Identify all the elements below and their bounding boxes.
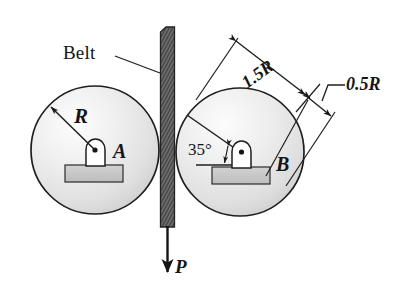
belt-label: Belt [63, 42, 95, 64]
belt-strip [161, 27, 175, 227]
dimension-0-5r-label: 0.5R [346, 74, 381, 95]
force-p-label: P [175, 256, 187, 278]
dim-0-5r-line [305, 95, 331, 116]
pulley-b-label: B [276, 153, 289, 176]
dim-0-5r-leader [322, 85, 345, 101]
pulley-a-group [31, 86, 159, 214]
pulley-a-base-plate [65, 165, 123, 182]
radius-label: R [74, 104, 88, 129]
belt-leader-line [115, 56, 160, 73]
pulley-a-label: A [113, 140, 126, 163]
angle-label: 35° [188, 140, 212, 160]
pulley-b-shaft-center [239, 149, 244, 154]
pulley-b-base-plate [212, 167, 270, 184]
